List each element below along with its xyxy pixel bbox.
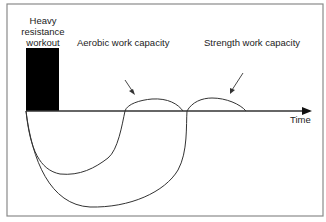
workout-bar (26, 48, 59, 111)
aerobic-fatigue-curve (26, 111, 125, 174)
strength-supercompensation-curve (187, 98, 246, 111)
strength-capacity-label: Strength work capacity (204, 37, 300, 48)
workout-label: Heavy resistance workout (16, 15, 70, 48)
strength-pointer-arrow (232, 73, 243, 90)
aerobic-capacity-label: Aerobic work capacity (77, 37, 169, 48)
aerobic-arrowhead-icon (129, 89, 135, 95)
time-axis-label: Time (290, 114, 311, 125)
aerobic-supercompensation-curve (125, 99, 183, 111)
